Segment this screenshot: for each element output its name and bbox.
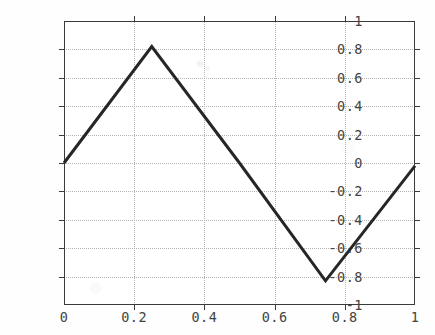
x-axis-tick-label: 1 [411,309,420,325]
y-axis-tick-label: 0.6 [337,70,363,86]
y-axis-tick-label: 0.4 [337,98,363,114]
x-axis-tick-label: 0.8 [332,309,358,325]
x-axis-tick-label: 0.6 [262,309,288,325]
y-axis-tick-label: -0.4 [328,212,363,228]
figure-canvas: -1-0.8-0.6-0.4-0.200.20.40.60.81 00.20.4… [0,0,435,335]
y-axis-tick-label: 0.8 [337,41,363,57]
x-axis-tick-label: 0 [60,309,69,325]
y-axis-tick-label: -0.2 [328,183,363,199]
y-axis-tick-label: 1 [354,13,363,29]
y-axis-tick-label: 0 [354,155,363,171]
y-axis-tick-label: -0.8 [328,269,363,285]
x-axis-tick-label: 0.2 [121,309,147,325]
y-axis-tick-label: -0.6 [328,240,363,256]
y-axis-tick-label: 0.2 [337,127,363,143]
x-axis-tick-label: 0.4 [191,309,217,325]
